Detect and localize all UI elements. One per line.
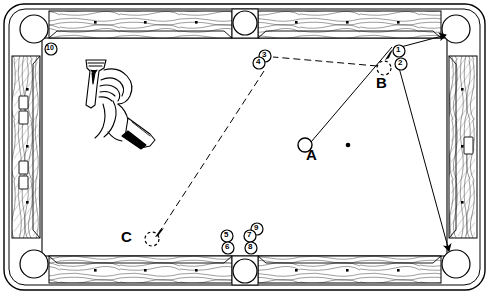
pocket-bottom-right bbox=[442, 250, 470, 278]
rail-marker-left-4 bbox=[19, 176, 28, 189]
pool-table-diagram: A B C 1 2 3 4 5 6 7 8 9 10 bbox=[0, 0, 489, 294]
marker-label-6: 6 bbox=[225, 242, 229, 251]
pocket-top-middle bbox=[233, 11, 257, 35]
pocket-bottom-left bbox=[20, 250, 48, 278]
rail-marker-left-2 bbox=[19, 111, 28, 124]
marker-label-7: 7 bbox=[247, 230, 251, 239]
point-label-a: A bbox=[306, 146, 317, 163]
rail-marker-left-3 bbox=[19, 161, 28, 174]
playing-surface bbox=[42, 38, 447, 256]
marker-label-3: 3 bbox=[262, 50, 266, 59]
rail-marker-left-1 bbox=[19, 96, 28, 109]
table-spot bbox=[346, 143, 351, 148]
marker-label-9: 9 bbox=[254, 223, 258, 232]
marker-label-2: 2 bbox=[398, 58, 402, 67]
marker-label-5: 5 bbox=[224, 230, 228, 239]
table-svg bbox=[0, 0, 489, 294]
point-label-c: C bbox=[121, 228, 132, 245]
marker-label-8: 8 bbox=[248, 242, 252, 251]
pocket-top-right bbox=[442, 15, 470, 43]
marker-label-10: 10 bbox=[46, 44, 54, 51]
pocket-bottom-middle bbox=[233, 259, 257, 283]
point-label-b: B bbox=[376, 74, 387, 91]
pocket-top-left bbox=[20, 15, 48, 43]
rail-marker-right-1 bbox=[464, 137, 473, 154]
marker-label-1: 1 bbox=[396, 45, 400, 54]
marker-label-4: 4 bbox=[256, 57, 260, 66]
